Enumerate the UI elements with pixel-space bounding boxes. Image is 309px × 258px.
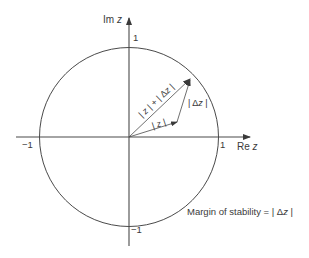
tick-x-neg: −1 xyxy=(22,139,33,150)
margin-of-stability-caption: Margin of stability = | Δz | xyxy=(187,206,293,217)
tick-x-pos: 1 xyxy=(220,139,225,150)
vector-sum-label: | z | + | Δz | xyxy=(137,82,176,120)
stability-diagram: Im z Re z 1 −1 1 −1 | z | | Δz | | z | +… xyxy=(0,0,309,258)
vector-delta-z-label: | Δz | xyxy=(188,98,208,108)
tick-y-neg: −1 xyxy=(131,224,142,235)
tick-y-pos: 1 xyxy=(133,32,138,43)
imaginary-axis-label: Im z xyxy=(103,14,122,25)
real-axis-label: Re z xyxy=(237,141,258,152)
vector-z-label: | z | xyxy=(151,117,168,131)
